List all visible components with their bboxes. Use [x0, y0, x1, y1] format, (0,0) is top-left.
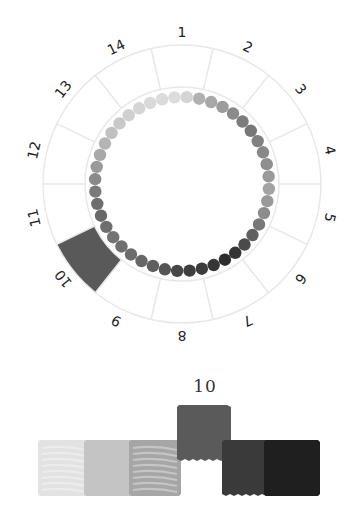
shade-dot[interactable] — [100, 221, 112, 233]
selected-shade-caption: 10 — [180, 376, 230, 396]
shade-dot[interactable] — [115, 240, 127, 252]
shade-dot[interactable] — [253, 218, 265, 230]
shade-dot[interactable] — [262, 170, 274, 182]
shade-dot[interactable] — [168, 91, 180, 103]
shade-dot[interactable] — [263, 183, 275, 195]
shade-dot[interactable] — [196, 263, 208, 275]
shade-dots-ring — [89, 91, 275, 277]
shade-dot[interactable] — [245, 125, 257, 137]
swatch-fabric-darkest — [264, 440, 320, 496]
segment-label-14[interactable]: 14 — [105, 36, 128, 58]
shade-dot[interactable] — [147, 260, 159, 272]
segment-label-8[interactable]: 8 — [178, 328, 187, 344]
shade-dot[interactable] — [144, 97, 156, 109]
shade-dot[interactable] — [205, 96, 217, 108]
fabric-swatch — [264, 440, 320, 496]
swatch-lightest[interactable] — [38, 440, 90, 496]
shade-dot[interactable] — [207, 259, 219, 271]
segment-divider — [269, 226, 307, 244]
swatch-medium[interactable] — [129, 440, 181, 496]
segment-label-6[interactable]: 6 — [292, 270, 310, 287]
shade-dot[interactable] — [91, 198, 103, 210]
shade-dot[interactable] — [229, 247, 241, 259]
segment-label-1[interactable]: 1 — [178, 24, 187, 40]
shade-dot[interactable] — [107, 231, 119, 243]
segment-divider — [204, 48, 213, 89]
fabric-swatch — [129, 440, 181, 496]
segment-divider — [242, 75, 268, 108]
swatch-darkest[interactable] — [264, 440, 320, 496]
segment-label-13[interactable]: 13 — [51, 77, 75, 101]
shade-dot[interactable] — [257, 146, 269, 158]
shade-dot[interactable] — [171, 265, 183, 277]
segment-label-9[interactable]: 9 — [109, 312, 124, 330]
segment-divider — [242, 260, 268, 293]
shade-dot[interactable] — [238, 238, 250, 250]
shade-dot[interactable] — [135, 255, 147, 267]
segment-divider — [57, 124, 95, 142]
color-wheel: 1234567891011121314 — [0, 0, 359, 360]
fabric-swatch — [38, 440, 90, 496]
shade-dot[interactable] — [89, 173, 101, 185]
segment-divider — [151, 279, 160, 320]
shade-dot[interactable] — [105, 127, 117, 139]
shade-dot[interactable] — [94, 149, 106, 161]
shade-dot[interactable] — [261, 195, 273, 207]
shade-dot[interactable] — [95, 209, 107, 221]
segment-divider — [95, 75, 121, 108]
shade-dot[interactable] — [251, 135, 263, 147]
segment-label-11[interactable]: 11 — [24, 207, 44, 228]
shade-dot[interactable] — [258, 207, 270, 219]
segment-divider — [204, 279, 213, 320]
segment-divider — [269, 124, 307, 142]
shade-dot[interactable] — [123, 109, 135, 121]
shade-dot[interactable] — [219, 253, 231, 265]
shade-dot[interactable] — [125, 248, 137, 260]
segment-label-5[interactable]: 5 — [321, 212, 339, 224]
shade-dot[interactable] — [246, 229, 258, 241]
shade-dot[interactable] — [113, 117, 125, 129]
segment-divider — [151, 48, 160, 89]
inner-ring — [85, 87, 279, 281]
shade-dot[interactable] — [159, 263, 171, 275]
segment-label-4[interactable]: 4 — [321, 144, 339, 156]
shade-dot[interactable] — [181, 91, 193, 103]
shade-dot[interactable] — [193, 93, 205, 105]
shade-dot[interactable] — [216, 101, 228, 113]
shade-dot[interactable] — [156, 93, 168, 105]
shade-dot[interactable] — [99, 137, 111, 149]
segment-label-12[interactable]: 12 — [24, 140, 44, 161]
segment-label-3[interactable]: 3 — [292, 81, 310, 98]
shade-dot[interactable] — [227, 107, 239, 119]
shade-dot[interactable] — [91, 161, 103, 173]
segment-label-2[interactable]: 2 — [240, 38, 255, 56]
shade-dot[interactable] — [133, 102, 145, 114]
segment-label-10[interactable]: 10 — [51, 267, 75, 291]
shade-dot[interactable] — [89, 185, 101, 197]
shade-dot[interactable] — [183, 264, 195, 276]
shade-dot[interactable] — [236, 115, 248, 127]
segment-label-7[interactable]: 7 — [240, 312, 255, 330]
shade-dot[interactable] — [261, 158, 273, 170]
